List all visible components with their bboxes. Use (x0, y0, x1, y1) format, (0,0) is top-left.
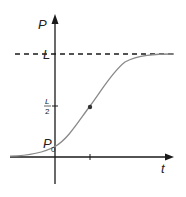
y-axis-arrow-icon (52, 14, 59, 24)
inflection-point (88, 105, 92, 109)
x-axis-label: t (161, 161, 166, 176)
y-axis-label: P (38, 17, 47, 32)
x-axis-arrow-icon (165, 154, 174, 161)
asymptote-label: L (43, 47, 50, 62)
logistic-diagram: P t L L 2 P 0 (0, 0, 186, 197)
half-label-denominator: 2 (45, 107, 50, 116)
logistic-curve (10, 54, 174, 156)
initial-value-subscript: 0 (51, 145, 56, 154)
half-label-numerator: L (45, 97, 49, 106)
